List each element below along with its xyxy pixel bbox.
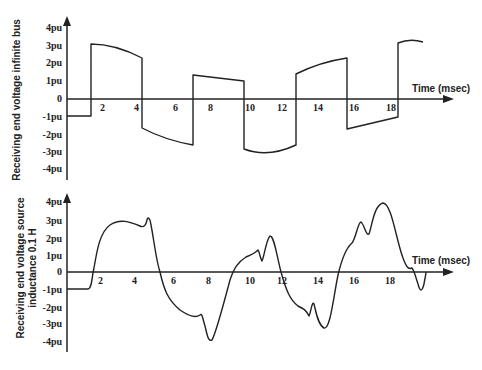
bottom-y-tick: 1pu bbox=[46, 250, 63, 261]
bottom-y-tick: -3pu bbox=[43, 318, 63, 329]
top-x-tick: 14 bbox=[313, 102, 323, 113]
bottom-x-tick: 2 bbox=[98, 275, 103, 286]
bottom-x-tick: 8 bbox=[206, 275, 211, 286]
top-y-tick: 0 bbox=[57, 93, 62, 104]
top-x-axis-arrow-icon bbox=[443, 95, 454, 103]
top-x-tick: 2 bbox=[100, 102, 105, 113]
top-x-tick: 4 bbox=[134, 102, 139, 113]
bottom-x-tick: 10 bbox=[245, 275, 255, 286]
top-y-tick: 4pu bbox=[46, 22, 63, 33]
top-x-axis-title: Time (msec) bbox=[412, 83, 470, 94]
bottom-x-tick: 6 bbox=[171, 275, 176, 286]
top-y-tick: 3pu bbox=[46, 40, 63, 51]
bottom-x-axis-arrow-icon bbox=[443, 268, 454, 276]
top-chart: Receiving end voltage infinite bus Time … bbox=[11, 16, 470, 181]
figure: Receiving end voltage infinite bus Time … bbox=[0, 0, 482, 370]
bottom-chart: Receiving end voltage source inductance … bbox=[15, 193, 470, 352]
top-x-tick: 12 bbox=[277, 102, 287, 113]
bottom-x-tick: 4 bbox=[132, 275, 137, 286]
top-y-tick: 1pu bbox=[46, 75, 63, 86]
bottom-y-tick: 3pu bbox=[46, 215, 63, 226]
bottom-y-tick: -2pu bbox=[43, 302, 63, 313]
bottom-x-axis-title: Time (msec) bbox=[412, 255, 470, 266]
top-x-tick: 8 bbox=[208, 102, 213, 113]
bottom-y-tick: -1pu bbox=[43, 284, 63, 295]
bottom-x-tick: 16 bbox=[349, 275, 359, 286]
top-y-tick: -4pu bbox=[43, 163, 63, 174]
top-y-axis-arrow-icon bbox=[63, 16, 71, 26]
bottom-y-axis-title-line1: Receiving end voltage source bbox=[15, 197, 26, 339]
bottom-y-tick: -4pu bbox=[43, 336, 63, 347]
bottom-y-tick: 2pu bbox=[46, 233, 63, 244]
bottom-x-tick: 14 bbox=[313, 275, 323, 286]
top-x-tick: 18 bbox=[386, 102, 396, 113]
bottom-x-tick: 18 bbox=[385, 275, 395, 286]
bottom-y-axis-arrow-icon bbox=[63, 193, 71, 203]
top-y-tick: -1pu bbox=[43, 111, 63, 122]
top-x-tick: 6 bbox=[173, 102, 178, 113]
top-x-tick: 10 bbox=[245, 102, 255, 113]
top-waveform-line bbox=[67, 40, 423, 152]
top-y-axis-title: Receiving end voltage infinite bus bbox=[11, 19, 22, 181]
top-y-tick: -2pu bbox=[43, 129, 63, 140]
top-y-tick: -3pu bbox=[43, 146, 63, 157]
top-y-tick: 2pu bbox=[46, 57, 63, 68]
bottom-y-tick: 0 bbox=[57, 266, 62, 277]
bottom-y-tick: 4pu bbox=[46, 196, 63, 207]
bottom-y-axis-title-line2: inductance 0.1 H bbox=[27, 228, 38, 307]
top-x-tick: 16 bbox=[349, 102, 359, 113]
